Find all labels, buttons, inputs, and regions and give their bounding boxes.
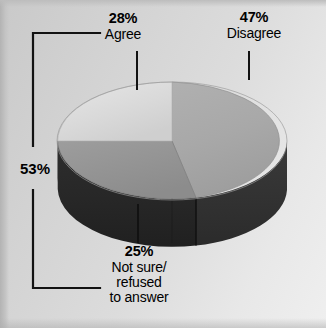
label-notsure-line1: Not sure/ bbox=[66, 260, 212, 275]
label-agree-percent: 28% bbox=[72, 11, 174, 27]
bracket-upper-53 bbox=[33, 33, 100, 146]
label-agree-category: Agree bbox=[72, 27, 174, 42]
label-notsure-line3: to answer bbox=[66, 290, 212, 305]
label-notsure-line2: refused bbox=[66, 275, 212, 290]
label-combined-total: 53% bbox=[6, 160, 64, 177]
label-notsure-percent: 25% bbox=[66, 244, 212, 260]
label-disagree-percent: 47% bbox=[198, 10, 310, 26]
label-disagree: 47% Disagree bbox=[198, 10, 310, 41]
label-combined-total-percent: 53% bbox=[6, 160, 64, 177]
label-agree: 28% Agree bbox=[72, 11, 174, 42]
label-disagree-category: Disagree bbox=[198, 26, 310, 41]
label-notsure: 25% Not sure/ refused to answer bbox=[66, 244, 212, 305]
pie-chart-figure: 28% Agree 47% Disagree 25% Not sure/ ref… bbox=[0, 0, 326, 328]
